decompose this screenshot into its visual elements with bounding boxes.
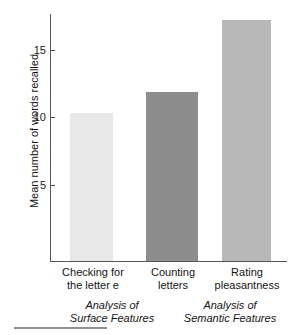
bar-checking-for-the-letter-e: [70, 113, 113, 261]
y-tick-mark-10: [50, 117, 55, 118]
bar-chart-figure: 15 10 5 Mean number of words recalled Ch…: [0, 0, 290, 335]
bar-rating-pleasantness: [222, 20, 271, 261]
y-axis-line: [50, 14, 51, 262]
group-label-surface-features: Analysis of Surface Features: [52, 299, 172, 325]
x-category-label-1-line1: Checking for: [48, 266, 138, 279]
x-category-label-2: Counting letters: [138, 266, 208, 292]
bar-counting-letters: [146, 92, 198, 261]
bottom-horizontal-rule: [14, 327, 107, 329]
x-category-label-2-line1: Counting: [138, 266, 208, 279]
x-category-label-1: Checking for the letter e: [48, 266, 138, 292]
group-label-2-line2: Semantic Features: [170, 312, 290, 325]
group-label-semantic-features: Analysis of Semantic Features: [170, 299, 290, 325]
y-tick-mark-5: [50, 185, 55, 186]
x-category-label-1-line2: the letter e: [48, 279, 138, 292]
x-category-label-2-line2: letters: [138, 279, 208, 292]
x-axis-line: [50, 261, 287, 262]
group-label-1-line1: Analysis of: [52, 299, 172, 312]
y-axis-title: Mean number of words recalled: [28, 31, 40, 231]
x-category-label-3-line2: pleasantness: [204, 279, 290, 292]
x-category-label-3: Rating pleasantness: [204, 266, 290, 292]
clipped-caption-remnant: [55, 0, 255, 3]
x-category-label-3-line1: Rating: [204, 266, 290, 279]
group-label-1-line2: Surface Features: [52, 312, 172, 325]
group-label-2-line1: Analysis of: [170, 299, 290, 312]
y-tick-mark-15: [50, 50, 55, 51]
